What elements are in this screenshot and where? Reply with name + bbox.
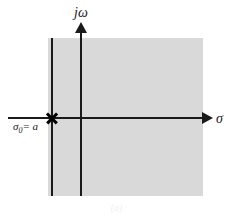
jomega-axis-arrowhead-icon <box>75 22 87 33</box>
jomega-axis-label: jω <box>74 6 88 20</box>
pole-label-value: = a <box>22 120 38 132</box>
pole-marker-x-icon <box>45 111 59 125</box>
jomega-axis-line <box>80 32 82 196</box>
figure-caption: (a) <box>0 203 233 213</box>
sigma-axis-line <box>8 117 204 119</box>
s-plane-roc-figure: jω σ σ0= a (a) <box>0 0 233 216</box>
sigma-axis-label: σ <box>216 112 223 126</box>
pole-label: σ0= a <box>13 121 38 135</box>
sigma-axis-arrowhead-icon <box>202 112 213 124</box>
